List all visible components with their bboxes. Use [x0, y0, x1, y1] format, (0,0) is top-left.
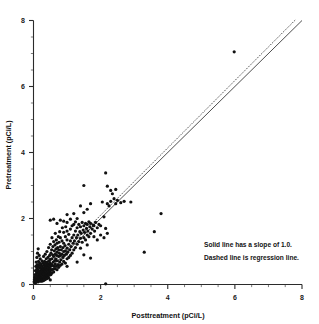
data-point — [143, 251, 146, 254]
data-point — [102, 215, 105, 218]
data-point — [52, 240, 55, 243]
data-point — [45, 250, 48, 253]
data-point — [76, 217, 79, 220]
data-point — [65, 221, 68, 224]
data-point — [79, 204, 82, 207]
data-point — [82, 253, 85, 256]
data-point — [114, 188, 117, 191]
data-point — [93, 229, 96, 232]
data-point — [106, 185, 109, 188]
data-point — [153, 230, 156, 233]
x-tick-label: 4 — [166, 294, 170, 301]
plot-canvas: 02468 02468 Posttreatment (pCi/L) Pretre… — [0, 0, 319, 324]
data-point — [86, 223, 89, 226]
data-point — [82, 184, 85, 187]
data-point — [52, 218, 55, 221]
data-point — [70, 252, 73, 255]
data-point — [49, 243, 52, 246]
data-point — [69, 227, 72, 230]
data-point — [92, 235, 95, 238]
data-point — [61, 226, 64, 229]
data-point — [69, 239, 72, 242]
data-point — [104, 227, 107, 230]
y-axis-major-ticks — [29, 21, 34, 285]
data-point — [67, 233, 70, 236]
data-point — [129, 200, 132, 203]
data-point — [233, 50, 236, 53]
data-point — [79, 237, 82, 240]
data-point — [70, 236, 73, 239]
data-point — [123, 200, 126, 203]
data-point — [58, 230, 61, 233]
data-point — [86, 229, 89, 232]
data-point — [65, 247, 68, 250]
data-point — [72, 233, 75, 236]
data-point — [49, 278, 52, 281]
data-point — [109, 200, 112, 203]
data-point — [65, 213, 68, 216]
y-tick-label: 4 — [21, 149, 25, 156]
data-point — [72, 212, 75, 215]
data-point — [65, 265, 68, 268]
data-point — [60, 262, 63, 265]
x-axis-tick-labels: 02468 — [32, 294, 305, 301]
data-point — [64, 235, 67, 238]
data-point — [106, 232, 109, 235]
x-tick-label: 8 — [300, 294, 304, 301]
data-point — [55, 238, 58, 241]
x-axis-title: Posttreatment (pCi/L) — [131, 311, 205, 320]
y-axis-tick-labels: 02468 — [21, 17, 25, 288]
data-point — [79, 225, 82, 228]
data-point — [119, 201, 122, 204]
data-point — [76, 226, 79, 229]
data-point — [62, 220, 65, 223]
data-point — [73, 239, 76, 242]
data-point — [63, 244, 66, 247]
data-point — [89, 222, 92, 225]
x-tick-label: 2 — [99, 294, 103, 301]
annotation-dashed-line: Dashed line is regression line. — [204, 254, 299, 262]
scatter-plot-figure: 02468 02468 Posttreatment (pCi/L) Pretre… — [0, 0, 319, 324]
data-point — [72, 223, 75, 226]
data-point — [92, 224, 95, 227]
data-point — [74, 229, 77, 232]
data-point — [88, 225, 91, 228]
data-point — [65, 238, 68, 241]
data-point — [77, 240, 80, 243]
data-point — [101, 200, 104, 203]
y-tick-label: 8 — [21, 17, 25, 24]
data-point — [52, 270, 55, 273]
y-tick-label: 6 — [21, 83, 25, 90]
data-point — [96, 238, 99, 241]
data-point — [37, 247, 40, 250]
data-point — [59, 236, 62, 239]
data-point — [54, 232, 57, 235]
data-point — [81, 241, 84, 244]
data-point — [67, 243, 70, 246]
data-point — [111, 192, 114, 195]
data-point — [81, 221, 84, 224]
data-point — [86, 243, 89, 246]
data-point — [64, 225, 67, 228]
data-point — [74, 220, 77, 223]
data-point — [69, 218, 72, 221]
data-point — [38, 254, 41, 257]
data-point — [159, 212, 162, 215]
data-point — [84, 238, 87, 241]
data-point — [83, 231, 86, 234]
data-point — [50, 236, 53, 239]
data-point — [69, 245, 72, 248]
data-point — [89, 257, 92, 260]
data-point — [57, 241, 60, 244]
data-point — [87, 235, 90, 238]
data-point — [116, 199, 119, 202]
data-point — [82, 211, 85, 214]
annotation-solid-line: Solid line has a slope of 1.0. — [204, 241, 292, 249]
data-point — [104, 171, 107, 174]
data-point — [76, 233, 79, 236]
data-point — [64, 261, 67, 264]
data-point — [47, 246, 50, 249]
y-tick-label: 0 — [21, 281, 25, 288]
data-point — [44, 253, 47, 256]
data-point — [94, 221, 97, 224]
